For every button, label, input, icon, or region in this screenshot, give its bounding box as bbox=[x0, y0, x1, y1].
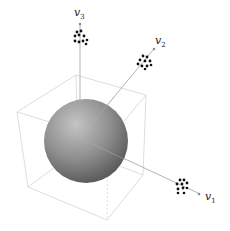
diagram-canvas bbox=[0, 0, 230, 231]
cluster-v1 bbox=[176, 179, 189, 195]
label-v2: v2 bbox=[155, 35, 166, 49]
arrow-tip-v3 bbox=[79, 23, 82, 26]
label-v3-subscript: 3 bbox=[80, 13, 84, 21]
arrow-tip-v1 bbox=[198, 193, 201, 196]
cluster-v2 bbox=[137, 55, 153, 71]
label-v1: v1 bbox=[205, 191, 216, 205]
label-v1-subscript: 1 bbox=[211, 197, 215, 205]
label-v2-subscript: 2 bbox=[161, 41, 165, 49]
label-v3: v3 bbox=[74, 7, 85, 21]
cluster-v3 bbox=[74, 30, 89, 46]
